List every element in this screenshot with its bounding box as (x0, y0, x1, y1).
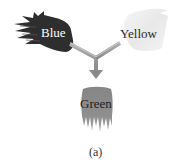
figure-caption: (a) (89, 145, 102, 160)
merge-arrow (70, 42, 120, 79)
blue-label: Blue (41, 26, 66, 40)
yellow-label: Yellow (120, 27, 157, 41)
color-mixing-diagram (0, 0, 172, 166)
green-label: Green (80, 97, 112, 111)
arrow-head-icon (89, 70, 103, 79)
